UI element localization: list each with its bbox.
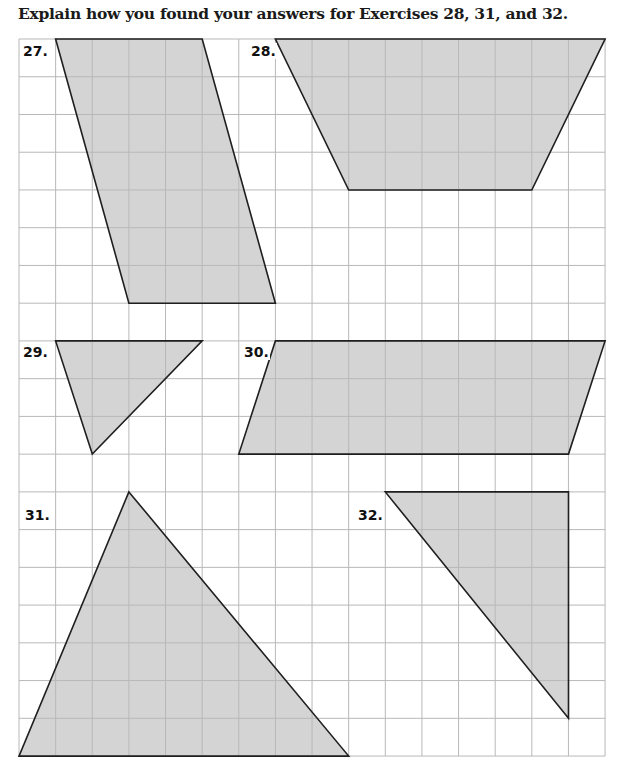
exercise-29-label: 29. — [22, 344, 49, 360]
exercise-27-label: 27. — [22, 43, 49, 59]
exercise-28-label: 28. — [250, 43, 277, 59]
exercise-31-label: 31. — [24, 507, 51, 523]
exercise-31-shape — [19, 492, 349, 756]
exercise-30-label: 30. — [243, 344, 270, 360]
exercise-32-label: 32. — [357, 507, 384, 523]
grid-worksheet — [0, 0, 622, 767]
